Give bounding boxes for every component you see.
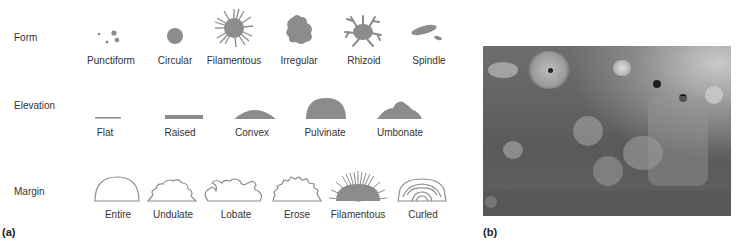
row-label-margin: Margin bbox=[14, 186, 45, 197]
colony-photograph bbox=[483, 46, 731, 216]
label-convex: Convex bbox=[212, 127, 292, 138]
curled-margin-icon bbox=[397, 177, 447, 202]
panel-b-label: (b) bbox=[483, 226, 497, 238]
filamentous-margin-icon bbox=[328, 170, 388, 202]
erose-margin-icon bbox=[272, 176, 322, 202]
rhizoid-icon bbox=[343, 13, 383, 47]
row-label-elevation: Elevation bbox=[14, 100, 55, 111]
label-curled: Curled bbox=[383, 209, 463, 220]
flat-icon bbox=[95, 116, 123, 120]
label-umbonate: Umbonate bbox=[360, 127, 440, 138]
raised-icon bbox=[165, 114, 205, 120]
irregular-icon bbox=[283, 13, 315, 47]
undulate-margin-icon bbox=[147, 177, 197, 202]
label-raised: Raised bbox=[140, 127, 220, 138]
punctiform-icon bbox=[95, 28, 125, 48]
circular-icon bbox=[166, 27, 186, 47]
filamentous-form-icon bbox=[214, 8, 254, 48]
label-spindle: Spindle bbox=[389, 55, 469, 66]
panel-a-label: (a) bbox=[2, 226, 15, 238]
label-flat: Flat bbox=[65, 127, 145, 138]
lobate-margin-icon bbox=[204, 177, 264, 202]
umbonate-icon bbox=[377, 100, 423, 120]
row-label-form: Form bbox=[14, 32, 37, 43]
pulvinate-icon bbox=[306, 98, 346, 120]
spindle-icon bbox=[410, 22, 446, 42]
label-pulvinate: Pulvinate bbox=[285, 127, 365, 138]
convex-icon bbox=[234, 107, 276, 119]
entire-margin-icon bbox=[94, 176, 140, 202]
